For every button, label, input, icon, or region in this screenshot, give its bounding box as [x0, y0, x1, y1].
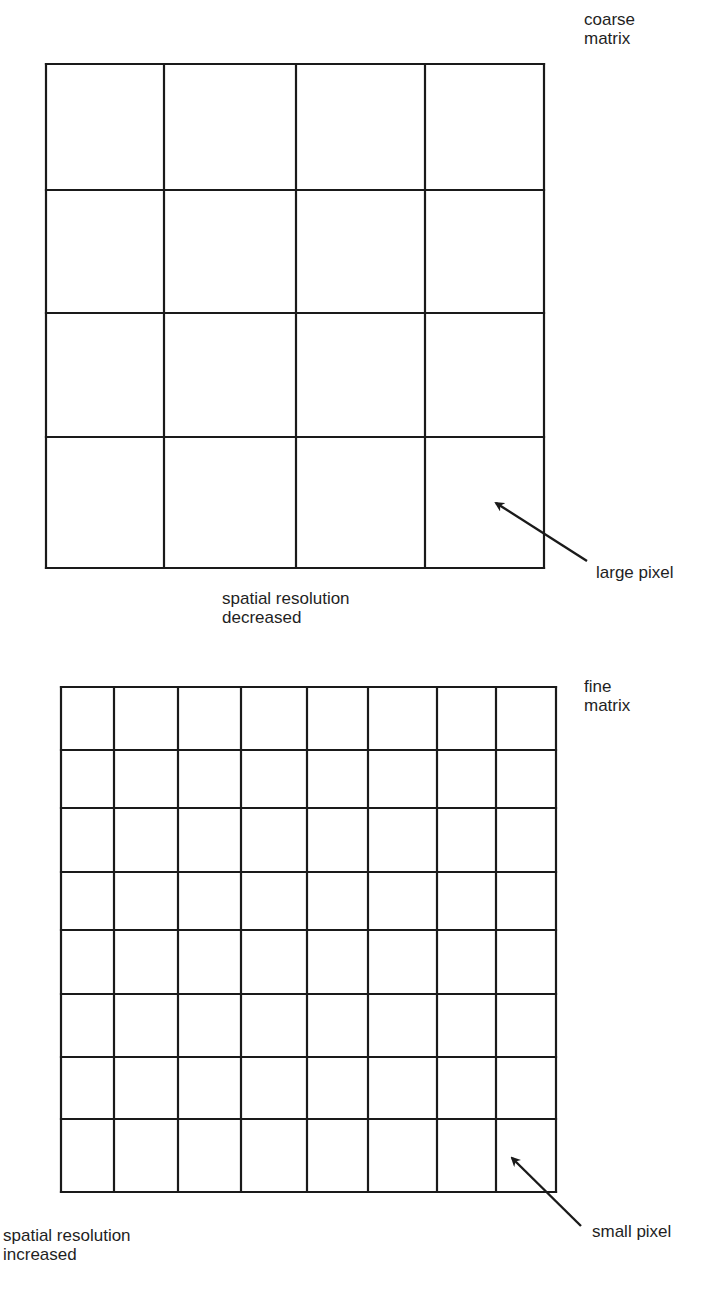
- coarse-caption-line1: spatial resolution: [222, 589, 350, 608]
- coarse-matrix-title: coarse matrix: [584, 10, 635, 48]
- large-pixel-text: large pixel: [596, 563, 674, 582]
- coarse-matrix-caption: spatial resolution decreased: [222, 589, 350, 627]
- large-pixel-label: large pixel: [596, 563, 674, 582]
- coarse-matrix-grid: [46, 64, 544, 568]
- fine-matrix-caption: spatial resolution increased: [3, 1226, 131, 1264]
- large-pixel-arrow-icon: [496, 503, 587, 561]
- small-pixel-text: small pixel: [592, 1222, 671, 1241]
- fine-caption-line2: increased: [3, 1245, 131, 1264]
- coarse-matrix-title-line1: coarse: [584, 10, 635, 29]
- fine-matrix-title-line2: matrix: [584, 696, 630, 715]
- fine-matrix-title-line1: fine: [584, 677, 630, 696]
- fine-matrix-grid: [61, 687, 556, 1192]
- coarse-matrix-title-line2: matrix: [584, 29, 635, 48]
- pixel-matrix-diagram: coarse matrix spatial resolution decreas…: [0, 0, 717, 1306]
- fine-matrix-title: fine matrix: [584, 677, 630, 715]
- diagram-canvas: [0, 0, 717, 1306]
- fine-caption-line1: spatial resolution: [3, 1226, 131, 1245]
- coarse-caption-line2: decreased: [222, 608, 350, 627]
- small-pixel-label: small pixel: [592, 1222, 671, 1241]
